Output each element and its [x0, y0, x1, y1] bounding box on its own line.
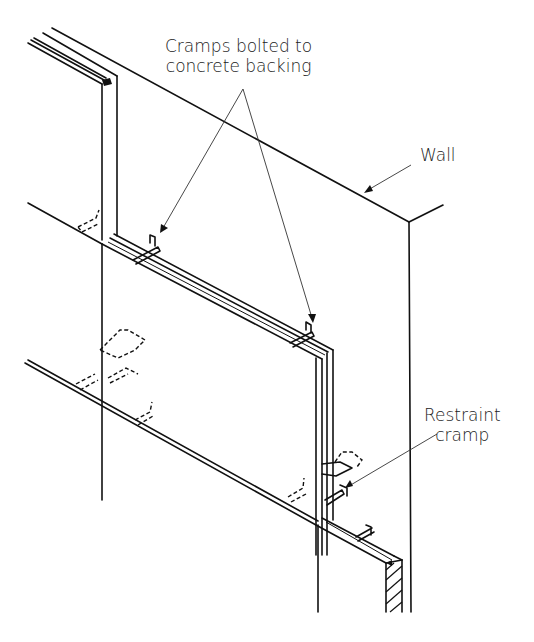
- restraint-label-line2: cramp: [424, 425, 501, 445]
- upper-panel-top-edge: [28, 33, 117, 240]
- upper-panel-bottom-edge: [102, 234, 333, 555]
- cramps-label-line2: concrete backing: [165, 56, 312, 76]
- restraint-label-line1: Restraint: [424, 405, 501, 425]
- lower-panel-top-edge: [25, 360, 318, 525]
- hidden-cramps: [76, 210, 362, 502]
- cladding-diagram: Cramps bolted to concrete backing Wall R…: [0, 0, 534, 642]
- lower-panel-corner: [316, 518, 402, 612]
- diagram-drawing: [0, 0, 534, 642]
- restraint-cramp-label: Restraint cramp: [424, 405, 501, 445]
- cramps-label: Cramps bolted to concrete backing: [165, 36, 312, 76]
- cramp-left: [133, 235, 160, 264]
- joint-line-upper: [28, 203, 102, 244]
- section-hatching: [386, 563, 402, 612]
- wall-label: Wall: [420, 145, 456, 165]
- cramps-label-line1: Cramps bolted to: [165, 36, 312, 56]
- leader-arrows: [160, 89, 437, 488]
